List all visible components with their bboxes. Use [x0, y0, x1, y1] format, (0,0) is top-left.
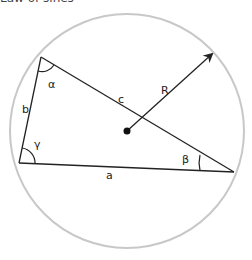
angle-beta-arc — [199, 155, 200, 171]
angle-alpha-arc — [38, 65, 54, 72]
side-a-line — [19, 163, 234, 172]
label-side-a: a — [106, 169, 113, 182]
label-radius: R — [161, 84, 169, 97]
label-gamma: γ — [34, 138, 41, 151]
label-beta: β — [182, 153, 189, 166]
triangle — [19, 57, 234, 172]
label-alpha: α — [48, 78, 55, 91]
radius-arrow — [127, 54, 212, 131]
side-c-line — [41, 57, 234, 172]
label-side-b: b — [22, 103, 29, 116]
center-dot — [124, 128, 131, 135]
label-side-c: c — [118, 93, 124, 106]
circumcircle-diagram: α β γ a b c R — [0, 0, 252, 260]
